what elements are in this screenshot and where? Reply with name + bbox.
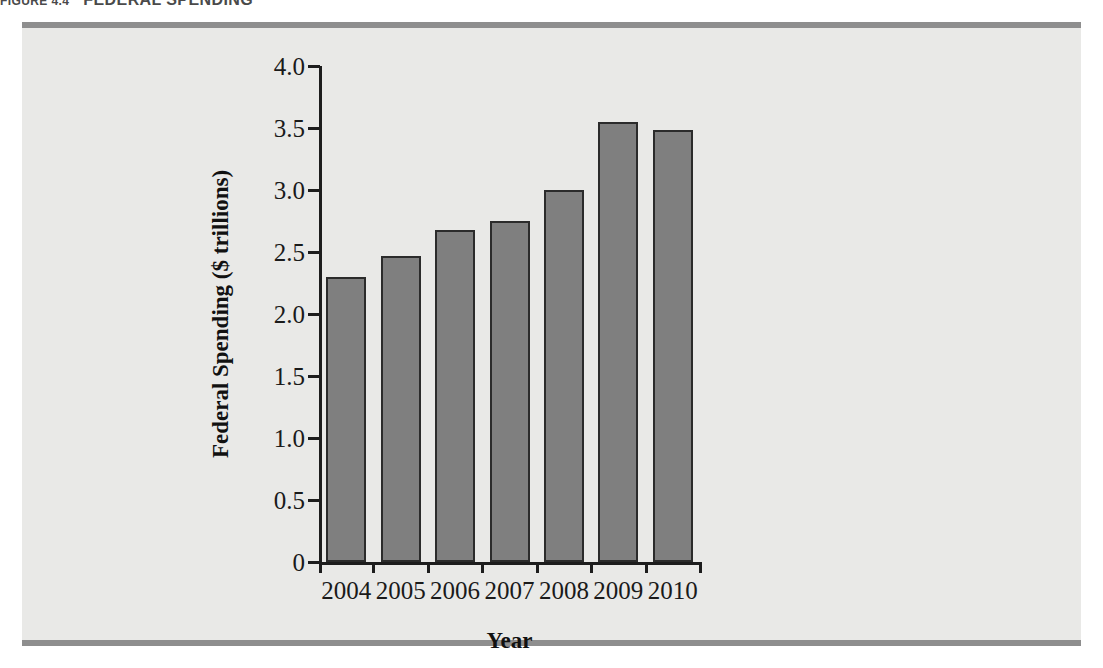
bar-chart-plot-area: 00.51.01.52.02.53.03.54.0 20042005200620… — [319, 66, 700, 562]
y-tick-label: 2.0 — [274, 302, 305, 327]
figure-panel: 00.51.01.52.02.53.03.54.0 20042005200620… — [22, 22, 1081, 646]
bar — [653, 130, 693, 562]
x-tick-mark — [481, 562, 484, 573]
y-tick-mark — [308, 127, 320, 130]
y-tick-label: 0.5 — [274, 488, 305, 513]
y-tick-mark — [308, 251, 320, 254]
x-tick-mark — [427, 562, 430, 573]
x-tick-mark — [319, 562, 322, 573]
x-tick-label: 2008 — [539, 578, 589, 603]
bar — [490, 221, 530, 562]
y-tick-label: 3.5 — [274, 116, 305, 141]
y-tick-mark — [308, 375, 320, 378]
y-tick-mark — [308, 313, 320, 316]
y-tick-mark — [308, 65, 320, 68]
x-tick-mark — [372, 562, 375, 573]
x-axis-title: Year — [319, 628, 700, 654]
x-tick-label: 2004 — [321, 578, 371, 603]
x-axis-line — [319, 562, 700, 565]
y-tick-label: 3.0 — [274, 178, 305, 203]
y-tick-label: 2.5 — [274, 240, 305, 265]
bar — [381, 256, 421, 562]
y-tick-label: 1.5 — [274, 364, 305, 389]
y-tick-label: 1.0 — [274, 426, 305, 451]
x-tick-mark — [590, 562, 593, 573]
x-tick-label: 2009 — [593, 578, 643, 603]
y-tick-mark — [308, 437, 320, 440]
y-tick-label: 4.0 — [274, 54, 305, 79]
x-tick-label: 2010 — [648, 578, 698, 603]
figure-number: FIGURE 4.4 — [0, 0, 69, 8]
y-axis-title: Federal Spending ($ trillions) — [208, 170, 234, 458]
figure-caption: FIGURE 4.4FEDERAL SPENDING — [0, 0, 700, 13]
x-tick-mark — [645, 562, 648, 573]
bar — [326, 277, 366, 562]
figure-title: FEDERAL SPENDING — [83, 0, 253, 8]
x-tick-label: 2005 — [376, 578, 426, 603]
bar — [435, 230, 475, 562]
bar — [544, 190, 584, 562]
x-tick-label: 2007 — [485, 578, 535, 603]
x-tick-label: 2006 — [430, 578, 480, 603]
x-tick-mark — [699, 562, 702, 573]
y-tick-mark — [308, 189, 320, 192]
x-tick-mark — [536, 562, 539, 573]
bar — [598, 122, 638, 562]
y-tick-label: 0 — [293, 550, 306, 575]
y-tick-mark — [308, 499, 320, 502]
panel-rule-top — [22, 22, 1081, 28]
